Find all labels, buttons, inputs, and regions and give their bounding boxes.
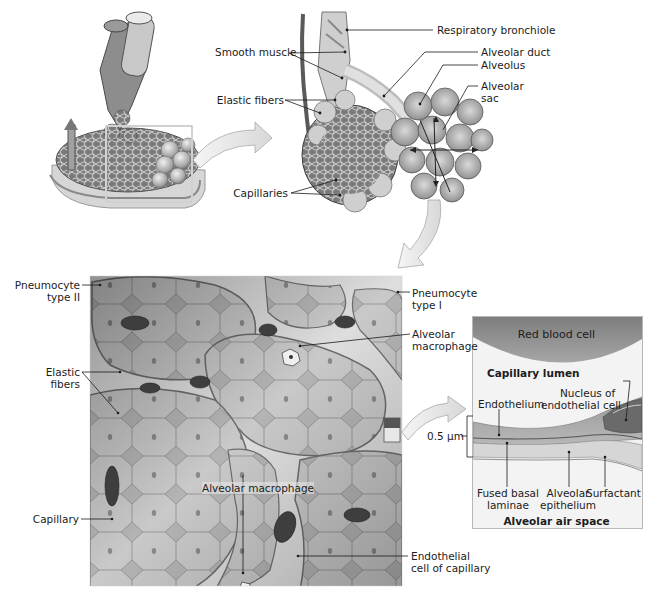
lobule-overview — [50, 12, 205, 208]
magnified-lobule — [302, 12, 493, 212]
label-respiratory-bronchiole: Respiratory bronchiole — [437, 24, 555, 36]
label-nucleus-2: endothelial cell — [541, 399, 621, 411]
label-alveolar-sac-2: sac — [481, 92, 499, 104]
label-scale: 0.5 μm — [427, 430, 464, 442]
label-surfactant: Surfactant — [586, 487, 641, 499]
alveolar-tissue-block — [90, 276, 402, 594]
arrow-to-tissue — [398, 200, 441, 268]
label-alveolar-duct: Alveolar duct — [481, 46, 550, 58]
label-capillaries: Capillaries — [226, 187, 288, 199]
label-elastic-fibers-1: Elastic — [20, 366, 80, 378]
label-capillary: Capillary — [20, 513, 79, 525]
label-red-blood-cell: Red blood cell — [472, 329, 641, 341]
label-nucleus-1: Nucleus of — [560, 387, 615, 399]
label-smooth-muscle: Smooth muscle — [215, 46, 287, 58]
label-endothelium: Endothelium — [478, 398, 544, 410]
label-pneumocyte-i-1: Pneumocyte — [412, 287, 477, 299]
label-alveolar-macrophage-1: Alveolar — [412, 328, 455, 340]
label-pneumocyte-ii-2: type II — [10, 291, 80, 303]
label-elastic-fibers-2: fibers — [20, 378, 80, 390]
label-pneumocyte-i-2: type I — [412, 299, 442, 311]
label-pneumocyte-ii-1: Pneumocyte — [10, 279, 80, 291]
label-alveolar-epi-2: epithelium — [532, 499, 604, 511]
label-alveolar-macrophage-inner: Alveolar macrophage — [202, 482, 314, 494]
label-alveolus: Alveolus — [481, 59, 525, 71]
label-elastic-fibers-top: Elastic fibers — [208, 94, 284, 106]
label-alveolar-air-space: Alveolar air space — [472, 515, 641, 527]
label-endothelial-cell-2: cell of capillary — [411, 562, 490, 574]
label-alveolar-sac-1: Alveolar — [481, 80, 524, 92]
arrow-to-lobule — [193, 122, 272, 168]
label-alveolar-macrophage-2: macrophage — [412, 340, 478, 352]
label-capillary-lumen: Capillary lumen — [487, 367, 579, 379]
label-endothelial-cell-1: Endothelial — [411, 550, 470, 562]
